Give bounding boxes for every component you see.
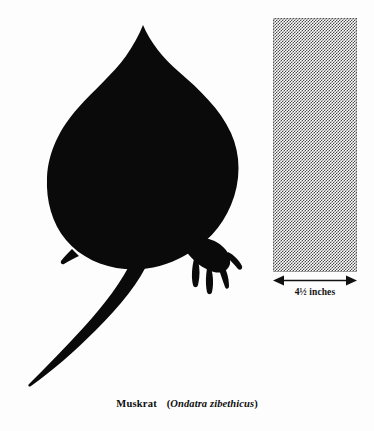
scale-reference: 4½ inches	[265, 14, 365, 304]
caption-scientific-name: Ondatra zibethicus	[170, 398, 254, 409]
caption-close-paren: )	[254, 398, 258, 409]
toe-1	[192, 259, 200, 287]
tail-shape	[28, 258, 150, 387]
figure-root: 4½ inches Muskrat(Ondatra zibethicus)	[0, 0, 374, 431]
silhouette-shapes	[28, 25, 242, 387]
caption-common-name: Muskrat	[116, 398, 156, 409]
arrow-head-left	[273, 276, 284, 286]
scale-swatch	[273, 18, 357, 272]
muskrat-silhouette-svg	[0, 0, 262, 400]
double-headed-arrow-icon	[273, 274, 357, 287]
arrow-head-right	[346, 276, 357, 286]
double-headed-arrow-svg	[273, 274, 357, 287]
figure-caption: Muskrat(Ondatra zibethicus)	[0, 398, 374, 409]
body-shape	[47, 25, 239, 269]
muskrat-silhouette	[0, 0, 262, 400]
hind-foot	[186, 238, 242, 294]
scale-label: 4½ inches	[265, 287, 365, 297]
left-foot-notch	[61, 249, 79, 264]
